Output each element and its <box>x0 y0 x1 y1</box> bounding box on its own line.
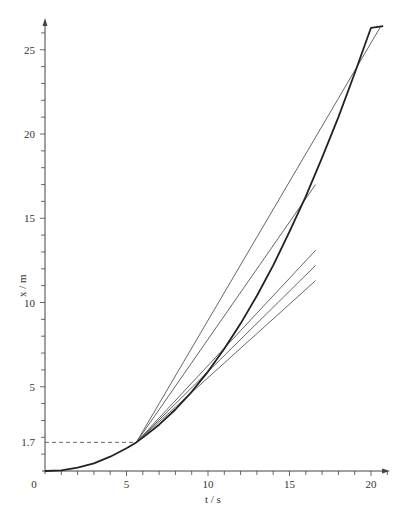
y-tick-label-special: 1.7 <box>21 436 35 448</box>
chord-line <box>136 281 315 443</box>
curve-line <box>45 26 383 471</box>
y-tick-label: 25 <box>24 44 36 56</box>
x-tick-label: 15 <box>284 478 296 490</box>
y-axis-arrow-icon <box>43 18 48 26</box>
x-tick-label: 10 <box>203 478 215 490</box>
y-tick-label: 10 <box>24 297 36 309</box>
x-axis-label: t / s <box>205 493 221 505</box>
origin-label: 0 <box>31 478 37 490</box>
y-tick-label: 15 <box>24 212 36 224</box>
axis-ticks <box>40 33 387 476</box>
chord-line <box>136 185 315 443</box>
displacement-curve <box>45 26 383 471</box>
chord-line <box>136 26 380 442</box>
x-tick-label: 20 <box>366 478 378 490</box>
displacement-time-chart: 51015205101520251.70t / sx / m <box>0 0 405 522</box>
x-tick-label: 5 <box>124 478 130 490</box>
chord-line <box>136 265 315 442</box>
y-tick-label: 20 <box>24 128 36 140</box>
y-axis-label: x / m <box>16 274 28 297</box>
axis-labels: 51015205101520251.70t / sx / m <box>16 44 377 505</box>
axes <box>42 18 390 474</box>
chord-lines <box>136 26 380 442</box>
y-tick-label: 5 <box>30 381 36 393</box>
x-axis-arrow-icon <box>382 469 390 474</box>
